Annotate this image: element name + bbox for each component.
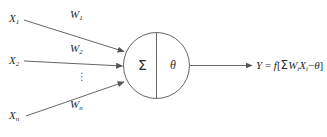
threshold-glyph: θ bbox=[170, 59, 176, 71]
input-label-xn: Xn bbox=[9, 110, 19, 121]
summation-glyph: Σ bbox=[138, 58, 147, 72]
neuron-diagram: X1 X2 Xn W1 W2 Wn ⋮ Σ θ Y = f[ΣWiXi−θ] bbox=[0, 0, 327, 137]
output-equals: = bbox=[262, 59, 274, 71]
input-label-x2: X2 bbox=[9, 55, 19, 66]
output-expression: Y = f[ΣWiXi−θ] bbox=[256, 59, 323, 71]
weight-label-w2: W2 bbox=[70, 43, 83, 54]
output-weight: W bbox=[288, 59, 297, 71]
output-input-sub: i bbox=[306, 65, 308, 73]
output-bracket-close: ] bbox=[320, 59, 324, 71]
input-label-x1: X1 bbox=[9, 13, 19, 24]
input-arrow-2 bbox=[24, 61, 123, 66]
weight-label-wn: Wn bbox=[70, 99, 83, 110]
input-ellipsis: ⋮ bbox=[77, 72, 87, 82]
weight-label-w1: W1 bbox=[70, 9, 83, 20]
